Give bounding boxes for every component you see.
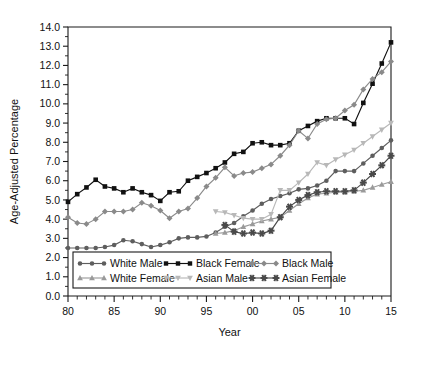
data-point [324,178,329,183]
data-point [250,141,255,146]
legend-label: Asian Female [282,272,346,284]
y-tick-label: 5.0 [45,194,60,206]
data-point [84,246,89,251]
data-point [324,163,330,168]
data-point [167,240,172,245]
y-tick-label: 4.0 [45,213,60,225]
data-point [121,190,126,195]
data-point [379,61,384,66]
x-tick-label: 05 [293,305,305,317]
y-tick-label: 12.0 [40,59,61,71]
data-point [260,201,265,206]
legend-label: White Male [110,257,163,269]
data-point [93,177,98,182]
data-point [388,179,394,184]
data-point [352,122,357,127]
data-point [195,175,200,180]
data-point [361,161,366,166]
y-tick-label: 7.0 [45,155,60,167]
data-point [204,234,209,239]
y-tick-label: 13.0 [40,40,61,52]
x-tick-label: 90 [154,305,166,317]
data-point [103,184,108,189]
y-tick-label: 10.0 [40,97,61,109]
data-point [306,186,311,191]
data-point [130,186,135,191]
data-point [75,192,80,197]
data-point [112,186,117,191]
data-point [389,138,394,143]
data-point [370,153,375,158]
data-point [186,235,191,240]
data-point [75,246,80,251]
data-point [66,200,71,205]
data-point [158,243,163,248]
data-point [258,231,265,237]
data-point [240,231,247,237]
y-tick-label: 0.0 [45,290,60,302]
y-tick-label: 14.0 [40,21,61,33]
data-point [351,102,357,108]
data-point [148,203,154,209]
series-white-female [213,179,394,236]
y-tick-label: 2.0 [45,251,60,263]
data-point [90,261,95,266]
data-point [278,143,283,148]
data-point [140,190,145,195]
data-point [149,245,154,250]
data-point [306,124,311,129]
data-point [84,185,89,190]
data-point [149,193,154,198]
y-tick-label: 3.0 [45,232,60,244]
data-point [260,140,265,145]
data-point [112,243,117,248]
x-tick-label: 95 [201,305,213,317]
x-tick-label: 85 [108,305,120,317]
data-point [240,170,246,176]
data-point [360,141,366,146]
data-point [103,245,108,250]
data-point [250,169,256,175]
data-point [232,152,237,157]
data-point [78,261,83,266]
x-tick-label: 10 [339,305,351,317]
data-point [213,166,218,171]
data-point [343,116,348,121]
data-point [333,169,338,174]
y-tick-label: 9.0 [45,117,60,129]
series-line [68,42,391,201]
data-point [195,235,200,240]
x-tick-label: 80 [62,305,74,317]
data-point [176,189,181,194]
series-line [68,62,391,224]
data-point [333,157,339,162]
data-point [66,246,71,251]
data-point [176,236,181,241]
legend-label: Asian Male [196,272,248,284]
data-point [269,143,274,148]
data-point [352,169,357,174]
data-point [370,134,376,139]
data-point [223,160,228,165]
y-axis-title: Age-Adjusted Percentage [8,99,20,224]
data-point [176,261,180,265]
data-point [269,197,274,202]
x-tick-label: 15 [385,305,397,317]
data-point [370,81,375,86]
data-point [379,128,385,133]
data-point [93,246,98,251]
data-point [204,171,209,176]
data-point [343,169,348,174]
data-point [102,261,107,266]
y-tick-label: 11.0 [40,78,60,90]
data-point [121,238,126,243]
data-point [268,228,275,234]
data-point [296,187,301,192]
data-point [186,178,191,183]
y-tick-label: 8.0 [45,136,60,148]
data-point [83,221,89,227]
line-chart: 0.01.02.03.04.05.06.07.08.09.010.011.012… [0,0,422,365]
data-point [249,230,256,236]
x-tick-label: 00 [247,305,259,317]
series-asian-male [213,121,394,222]
